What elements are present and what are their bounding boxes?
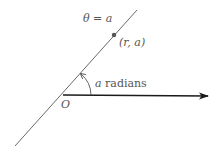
- polar-axis-arrow: [63, 95, 208, 96]
- angle-label-unit: radians: [102, 77, 148, 90]
- point-label: (r, a): [119, 36, 145, 49]
- angle-label: a radians: [95, 77, 147, 90]
- polar-diagram: θ = a (r, a) a radians O: [0, 0, 219, 152]
- ray-label: θ = a: [83, 12, 112, 25]
- origin-label: O: [61, 98, 70, 111]
- angle-arc: [81, 74, 91, 95]
- point-marker: [112, 33, 116, 37]
